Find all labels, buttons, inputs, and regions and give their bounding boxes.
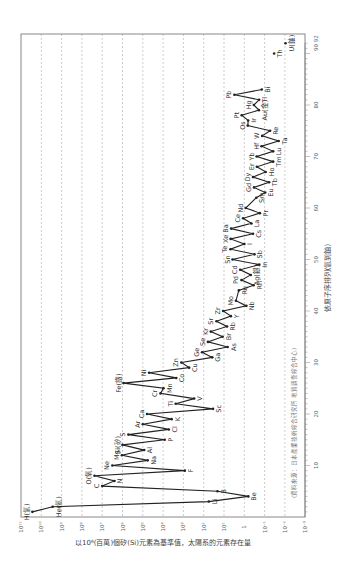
element-label: C — [93, 483, 101, 488]
y-tick-label: 10⁻³ — [302, 521, 308, 533]
element-label: Sb — [256, 250, 264, 258]
data-point — [222, 310, 225, 313]
data-point — [188, 366, 191, 369]
element-label: Er — [248, 163, 256, 170]
element-label: Sr — [207, 318, 215, 325]
x-tick-label: 60 — [313, 204, 319, 211]
data-point — [93, 475, 96, 478]
y-tick-label: 10³ — [180, 522, 186, 531]
data-point — [51, 505, 54, 508]
element-label: Hg — [245, 100, 253, 109]
element-label: H(氫) — [22, 503, 31, 520]
atomic-number-axis: 102030405060708090 92 — [305, 35, 319, 517]
element-label: S — [119, 433, 127, 437]
abundance-axis: 10¹¹10¹⁰10⁹10⁸10⁷10⁶10⁵10⁴10³10²10¹110⁻¹… — [18, 521, 308, 534]
element-label: F — [187, 469, 195, 473]
abundance-chart: 102030405060708090 92 10¹¹10¹⁰10⁹10⁸10⁷1… — [0, 0, 348, 574]
data-point — [146, 413, 149, 416]
data-point — [167, 428, 170, 431]
element-label: Cr — [151, 389, 159, 397]
x-tick-label: 90 92 — [313, 35, 319, 51]
data-point — [127, 433, 130, 436]
data-point — [226, 346, 229, 349]
element-label: Ne — [103, 461, 111, 470]
element-label: Pb — [225, 91, 233, 99]
element-label: Ta — [281, 138, 289, 146]
data-point — [259, 212, 262, 215]
data-point — [244, 207, 247, 210]
element-label: Mo — [227, 296, 235, 306]
element-label: Be — [250, 492, 258, 500]
data-point — [170, 418, 173, 421]
element-label: Kr — [202, 328, 210, 335]
data-point — [233, 93, 236, 96]
element-label: He(氦) — [54, 496, 63, 517]
data-point — [174, 402, 177, 405]
element-label: Ce — [234, 214, 242, 223]
element-label: Pt — [233, 112, 241, 119]
element-label: Cu — [191, 363, 199, 372]
element-label: K — [174, 416, 182, 421]
data-point — [245, 305, 248, 308]
data-point — [277, 140, 280, 143]
data-point — [240, 114, 243, 117]
data-point — [159, 392, 162, 395]
element-label: Xe — [222, 235, 230, 243]
element-label: I — [246, 243, 254, 245]
element-label: Ir — [250, 118, 258, 123]
element-label: Na — [150, 456, 158, 465]
data-points — [31, 42, 287, 513]
x-tick-label: 40 — [313, 307, 319, 314]
data-point — [148, 372, 151, 375]
data-point — [253, 186, 256, 189]
element-label: Dy — [244, 173, 252, 182]
element-label: Br — [225, 333, 233, 340]
data-point — [175, 377, 178, 380]
element-label: La — [253, 220, 261, 228]
data-point — [193, 397, 196, 400]
y-tick-label: 10¹ — [221, 522, 227, 531]
y-tick-label: 10¹⁰ — [38, 521, 44, 533]
element-label: Co — [178, 374, 186, 383]
data-point — [273, 52, 276, 55]
data-point — [229, 238, 232, 241]
element-label: N — [116, 478, 124, 483]
data-point — [31, 511, 34, 514]
element-label: Ge — [193, 348, 201, 357]
y-tick-label: 10⁷ — [99, 522, 105, 531]
element-label: Os — [239, 121, 247, 130]
element-label: Nb — [248, 301, 256, 310]
element-label: Cl — [171, 426, 179, 433]
element-label: Ba — [222, 224, 230, 232]
data-point — [207, 500, 210, 503]
element-label: Ga — [214, 353, 222, 362]
data-point — [101, 485, 104, 488]
element-label: Si(矽) — [113, 436, 122, 454]
data-point — [239, 269, 242, 272]
data-point — [258, 109, 261, 112]
data-point — [180, 361, 183, 364]
y-tick-label: 10⁻² — [282, 521, 288, 533]
y-tick-label: 10⁸ — [79, 522, 85, 532]
element-label: Tl — [261, 97, 269, 104]
element-label: Fe(鐵) — [114, 373, 123, 392]
element-label: Pd — [232, 276, 240, 284]
y-tick-label: 10¹¹ — [18, 521, 24, 532]
x-tick-label: 70 — [313, 153, 319, 160]
element-label: Sm — [258, 192, 266, 202]
abundance-line — [32, 90, 278, 512]
data-point — [211, 356, 214, 359]
data-point — [242, 217, 245, 220]
data-point — [121, 444, 124, 447]
data-point — [113, 480, 116, 483]
element-label: Re — [272, 127, 280, 135]
data-point — [207, 341, 210, 344]
element-label: Gd — [245, 183, 253, 192]
data-point — [229, 248, 232, 251]
element-label: Pr — [262, 210, 270, 217]
data-point — [272, 150, 275, 153]
data-point — [184, 469, 187, 472]
element-labels: H(氫)He(氦)LiBeBCNO(氧)FNeNaMgAlSi(矽)PSClAr… — [22, 35, 295, 521]
data-point — [111, 464, 114, 467]
element-label: O(氧) — [84, 467, 93, 484]
